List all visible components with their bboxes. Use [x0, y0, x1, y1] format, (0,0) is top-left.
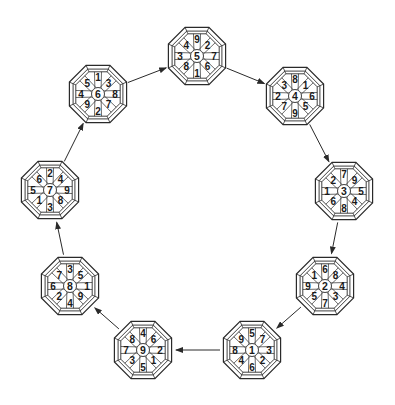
- ring-number-left: 4: [78, 89, 84, 100]
- ring-number-bottom-right: 2: [260, 355, 266, 366]
- nodes-layer: 5927618344816597233795486122684375911573…: [21, 27, 372, 378]
- ring-number-bottom-right: 3: [333, 291, 339, 302]
- ring-number-left: 2: [275, 91, 281, 102]
- octagon-node-3: 379548612: [315, 162, 372, 219]
- ring-number-top: 5: [249, 328, 255, 339]
- ring-number-left: 7: [123, 345, 129, 356]
- ring-number-right: 6: [309, 91, 315, 102]
- ring-number-bottom-left: 4: [239, 355, 245, 366]
- diagram-canvas: 5927618344816597233795486122684375911573…: [0, 0, 395, 405]
- ring-number-top-left: 8: [130, 334, 136, 345]
- ring-number-bottom-right: 6: [205, 61, 211, 72]
- arrow-3-to-2: [332, 222, 338, 253]
- ring-number-right: 9: [64, 185, 70, 196]
- octagon-node-1: 157326489: [223, 321, 280, 378]
- ring-number-left: 8: [232, 345, 238, 356]
- octagon-node-9: 946215378: [114, 321, 171, 378]
- ring-number-top-left: 2: [331, 175, 337, 186]
- ring-number-bottom: 2: [95, 106, 101, 117]
- ring-number-bottom-left: 2: [57, 291, 63, 302]
- ring-number-top-right: 2: [205, 40, 211, 51]
- ring-number-right: 3: [266, 345, 272, 356]
- arrow-8-to-7: [57, 222, 64, 254]
- arrow-2-to-1: [277, 307, 301, 328]
- ring-number-top-right: 9: [352, 175, 358, 186]
- ring-number-right: 5: [358, 186, 364, 197]
- octagon-node-4: 481659723: [266, 67, 323, 124]
- ring-number-left: 9: [305, 281, 311, 292]
- ring-number-left: 3: [177, 51, 183, 62]
- ring-number-bottom: 8: [341, 203, 347, 214]
- ring-number-bottom-right: 8: [58, 195, 64, 206]
- ring-number-top: 2: [47, 168, 53, 179]
- ring-number-top-left: 7: [57, 270, 63, 281]
- ring-number-bottom: 1: [194, 68, 200, 79]
- ring-number-top-left: 9: [239, 334, 245, 345]
- ring-number-bottom: 9: [292, 108, 298, 119]
- ring-number-top-right: 4: [58, 174, 64, 185]
- center-number: 5: [194, 50, 200, 62]
- center-number: 7: [47, 184, 53, 196]
- ring-number-bottom-right: 1: [151, 355, 157, 366]
- ring-number-top: 4: [140, 328, 146, 339]
- ring-number-right: 8: [112, 89, 118, 100]
- ring-number-right: 7: [211, 51, 217, 62]
- arrow-5-to-4: [227, 68, 265, 83]
- ring-number-top-left: 3: [282, 80, 288, 91]
- ring-number-top-left: 6: [37, 174, 43, 185]
- ring-number-bottom-right: 7: [106, 99, 112, 110]
- ring-number-top: 9: [194, 34, 200, 45]
- center-number: 9: [140, 344, 146, 356]
- ring-number-bottom-left: 3: [130, 355, 136, 366]
- ring-number-top-left: 4: [184, 40, 190, 51]
- ring-number-bottom-right: 5: [303, 101, 309, 112]
- arrow-7-to-6: [64, 124, 83, 162]
- octagon-node-7: 724983156: [21, 161, 78, 218]
- ring-number-bottom-left: 7: [282, 101, 288, 112]
- ring-number-bottom: 3: [47, 202, 53, 213]
- ring-number-top-right: 7: [260, 334, 266, 345]
- ring-number-top-left: 5: [85, 78, 91, 89]
- ring-number-bottom-left: 5: [312, 291, 318, 302]
- ring-number-top: 6: [322, 264, 328, 275]
- arrow-9-to-8: [95, 308, 119, 329]
- ring-number-bottom-left: 6: [331, 196, 337, 207]
- ring-number-left: 1: [324, 186, 330, 197]
- ring-number-left: 5: [30, 185, 36, 196]
- ring-number-bottom-left: 8: [184, 61, 190, 72]
- ring-number-top: 1: [95, 72, 101, 83]
- octagon-node-2: 268437591: [296, 257, 353, 314]
- arrow-4-to-3: [310, 124, 329, 161]
- ring-number-top-left: 1: [312, 270, 318, 281]
- center-number: 2: [322, 280, 328, 292]
- octagon-cycle-diagram: 5927618344816597233795486122684375911573…: [0, 0, 395, 405]
- ring-number-top-right: 6: [151, 334, 157, 345]
- ring-number-bottom-left: 1: [37, 195, 43, 206]
- ring-number-bottom: 6: [249, 362, 255, 373]
- ring-number-right: 4: [339, 281, 345, 292]
- center-number: 4: [292, 90, 298, 102]
- center-number: 1: [249, 344, 255, 356]
- ring-number-left: 6: [50, 281, 56, 292]
- ring-number-right: 2: [157, 345, 163, 356]
- octagon-node-5: 592761834: [168, 27, 225, 84]
- ring-number-top-right: 8: [333, 270, 339, 281]
- ring-number-top-right: 5: [78, 270, 84, 281]
- center-number: 3: [341, 185, 347, 197]
- octagon-node-6: 613872945: [69, 65, 126, 122]
- ring-number-right: 1: [84, 281, 90, 292]
- ring-number-bottom: 7: [322, 298, 328, 309]
- ring-number-bottom: 4: [67, 298, 73, 309]
- ring-number-bottom-right: 4: [352, 196, 358, 207]
- ring-number-top-right: 3: [106, 78, 112, 89]
- ring-number-top: 8: [292, 74, 298, 85]
- center-number: 8: [67, 280, 73, 292]
- ring-number-bottom: 5: [140, 362, 146, 373]
- center-number: 6: [95, 88, 101, 100]
- ring-number-bottom-right: 9: [78, 291, 84, 302]
- ring-number-top-right: 1: [303, 80, 309, 91]
- ring-number-top: 3: [67, 264, 73, 275]
- ring-number-top: 7: [341, 169, 347, 180]
- ring-number-bottom-left: 9: [85, 99, 91, 110]
- arrow-6-to-5: [128, 68, 166, 83]
